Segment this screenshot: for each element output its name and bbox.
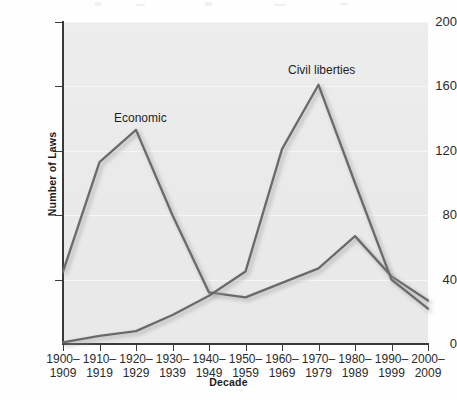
series-layer — [0, 0, 457, 400]
chart-figure: 200 160 120 80 40 0 Number of Laws 1900–… — [0, 0, 457, 400]
series-line-economic — [63, 130, 428, 301]
series-annotation-civil-liberties: Civil liberties — [288, 63, 355, 77]
series-annotation-economic: Economic — [114, 111, 167, 125]
